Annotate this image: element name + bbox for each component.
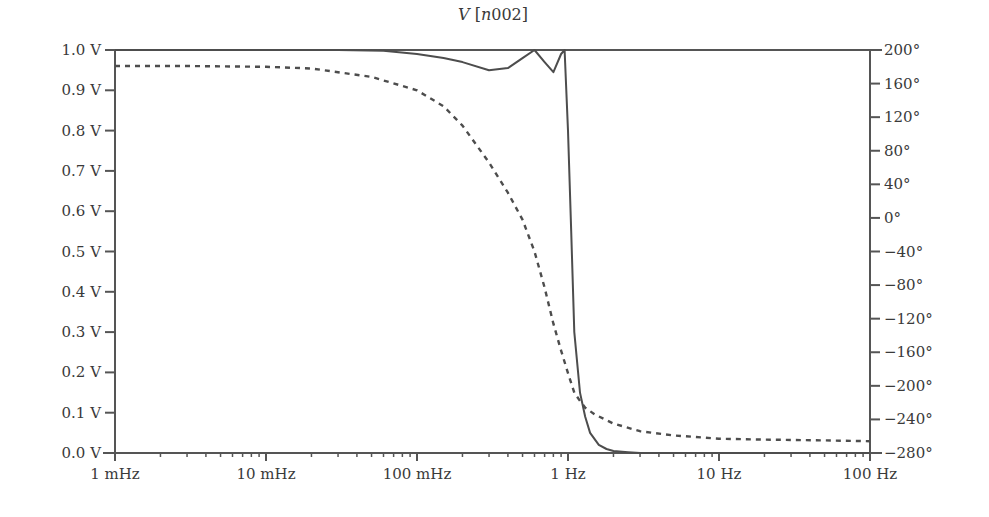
- y-right-tick-label: −120°: [884, 310, 933, 328]
- y-right-tick-label: 80°: [884, 142, 911, 160]
- y-right-tick-label: 160°: [884, 75, 920, 93]
- y-left-tick-label: 0.1 V: [62, 404, 103, 422]
- y-left-tick-label: 0.0 V: [62, 444, 103, 462]
- plot-frame: [103, 49, 882, 457]
- chart-title: V [n002]: [458, 5, 528, 24]
- y-right-tick-label: −240°: [884, 410, 933, 428]
- y-left-tick-label: 0.9 V: [62, 81, 103, 99]
- y-right-tick-label: −80°: [884, 276, 923, 294]
- y-axis-right-phase: 200°160°120°80°40°0°−40°−80°−120°−160°−2…: [870, 41, 933, 462]
- y-left-tick-label: 0.4 V: [62, 283, 103, 301]
- y-right-tick-label: −280°: [884, 444, 933, 462]
- phase-curve: [115, 66, 870, 441]
- x-tick-label: 10 mHz: [236, 465, 295, 483]
- x-tick-label: 100 mHz: [383, 465, 452, 483]
- y-left-tick-label: 0.3 V: [62, 323, 103, 341]
- plot-series: [115, 50, 870, 453]
- y-left-tick-label: 0.7 V: [62, 162, 103, 180]
- y-left-tick-label: 0.2 V: [62, 363, 103, 381]
- bode-plot: V [n002] 1.0 V0.9 V0.8 V0.7 V0.6 V0.5 V0…: [0, 0, 989, 517]
- x-tick-label: 1 Hz: [550, 465, 585, 483]
- y-left-tick-label: 0.6 V: [62, 202, 103, 220]
- y-right-tick-label: 40°: [884, 175, 911, 193]
- x-tick-label: 1 mHz: [90, 465, 140, 483]
- x-axis-frequency: 1 mHz10 mHz100 mHz1 Hz10 Hz100 Hz: [90, 453, 897, 483]
- x-tick-label: 100 Hz: [843, 465, 897, 483]
- y-axis-left-magnitude: 1.0 V0.9 V0.8 V0.7 V0.6 V0.5 V0.4 V0.3 V…: [62, 41, 115, 462]
- y-right-tick-label: −40°: [884, 243, 923, 261]
- y-right-tick-label: −160°: [884, 343, 933, 361]
- y-right-tick-label: 200°: [884, 41, 920, 59]
- y-right-tick-label: 0°: [884, 209, 901, 227]
- y-left-tick-label: 1.0 V: [62, 41, 103, 59]
- y-left-tick-label: 0.5 V: [62, 243, 103, 261]
- y-right-tick-label: −200°: [884, 377, 933, 395]
- y-left-tick-label: 0.8 V: [62, 122, 103, 140]
- x-tick-label: 10 Hz: [697, 465, 742, 483]
- magnitude-curve: [115, 50, 870, 453]
- y-right-tick-label: 120°: [884, 108, 920, 126]
